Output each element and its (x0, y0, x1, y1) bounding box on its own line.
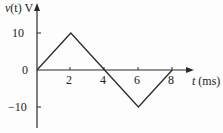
y-axis-arrow-icon (34, 3, 40, 11)
y-axis-label: v(t) V (5, 2, 33, 14)
x-axis-label: t (ms) (192, 75, 220, 87)
chart-plot (0, 0, 223, 133)
x-tick-label-4: 4 (100, 74, 106, 86)
x-tick-label-2: 2 (66, 74, 72, 86)
y-tick-label-0: 0 (22, 64, 28, 76)
x-tick-label-6: 6 (134, 74, 140, 86)
chart: v(t) V 10 0 −10 2 4 6 8 t (ms) (0, 0, 223, 133)
x-axis-arrow-icon (186, 67, 194, 73)
x-tick-label-8: 8 (168, 74, 174, 86)
y-tick-label-10: 10 (12, 27, 24, 39)
y-tick-label-neg10: −10 (8, 101, 27, 113)
